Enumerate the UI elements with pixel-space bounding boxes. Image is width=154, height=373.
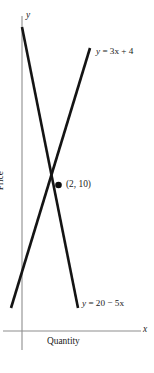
demand-line — [22, 27, 78, 308]
supply-equation-label: y = 3x + 4 — [96, 47, 133, 56]
intersection-point-label: (2, 10) — [66, 180, 91, 189]
x-axis-variable-label: x — [143, 325, 147, 334]
demand-equation-label: y = 20 − 5x — [82, 299, 124, 308]
supply-line — [11, 48, 90, 308]
y-axis-variable-label: y — [26, 11, 30, 20]
intersection-point-marker — [55, 182, 62, 189]
y-axis-title: Price — [0, 171, 5, 190]
x-axis-title: Quantity — [47, 337, 80, 346]
